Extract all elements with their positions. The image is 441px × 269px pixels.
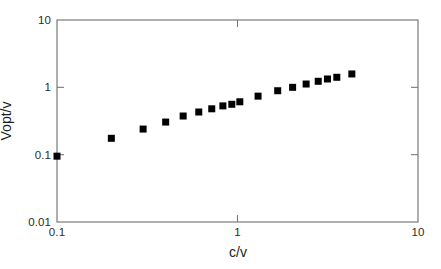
data-point <box>208 105 215 112</box>
x-tick-label: 1 <box>234 226 241 238</box>
plot-frame <box>57 20 418 222</box>
data-point <box>219 102 226 109</box>
data-point <box>303 81 310 88</box>
chart-figure: 1010.10.010.1110 c/v Vopt/v <box>0 0 441 269</box>
plot-canvas <box>0 0 441 269</box>
x-axis-title: c/v <box>229 244 247 260</box>
x-tick-label: 10 <box>412 226 425 238</box>
data-point <box>324 75 331 82</box>
y-tick-label: 0.01 <box>0 216 51 228</box>
y-tick-label: 1 <box>0 81 51 93</box>
data-point-group <box>54 70 356 159</box>
y-tick-label: 10 <box>0 14 51 26</box>
data-point <box>348 70 355 77</box>
x-tick-label: 0.1 <box>49 226 65 238</box>
data-point <box>236 98 243 105</box>
data-point <box>54 153 61 160</box>
data-point <box>289 84 296 91</box>
data-point <box>195 109 202 116</box>
y-tick-label: 0.1 <box>0 149 51 161</box>
data-point <box>255 93 262 100</box>
data-point <box>108 135 115 142</box>
data-point <box>228 101 235 108</box>
data-point <box>180 113 187 120</box>
data-point <box>333 74 340 81</box>
data-point <box>274 87 281 94</box>
data-point <box>140 126 147 133</box>
data-point <box>315 78 322 85</box>
data-point <box>162 119 169 126</box>
axes-border <box>57 20 418 222</box>
y-axis-title: Vopt/v <box>0 102 14 141</box>
tick-marks <box>57 20 418 222</box>
